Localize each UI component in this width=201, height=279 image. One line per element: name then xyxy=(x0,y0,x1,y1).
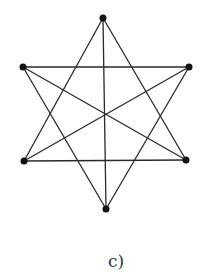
vertex-top xyxy=(100,15,107,22)
vertex-lower-right xyxy=(183,157,190,164)
graph-edges xyxy=(23,18,189,209)
star-graph-diagram xyxy=(0,0,201,279)
vertex-lower-left xyxy=(21,158,28,165)
edge-top-lower-right xyxy=(103,18,186,160)
vertex-bottom xyxy=(103,206,110,213)
vertex-upper-right xyxy=(186,64,193,71)
vertex-upper-left xyxy=(20,64,27,71)
figure-label: c) xyxy=(108,253,124,270)
